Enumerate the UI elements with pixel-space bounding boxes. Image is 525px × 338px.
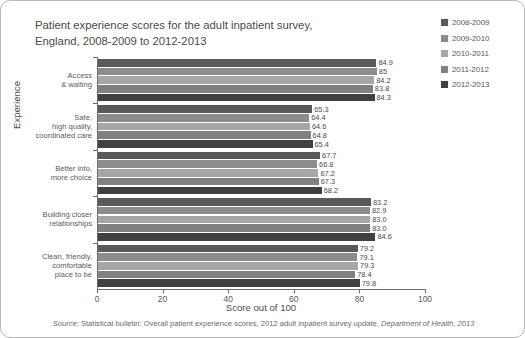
bar-row[interactable]: 65.3 [98,105,425,113]
x-axis-tick [228,289,229,293]
legend-swatch-icon [441,66,448,73]
bar-value-label: 85 [377,67,387,76]
bar-row[interactable]: 83.0 [98,216,425,224]
bar-row[interactable]: 83.2 [98,198,425,206]
bar[interactable] [98,198,371,206]
x-axis-title: Score out of 100 [97,302,425,313]
bar-value-label: 84.6 [375,232,391,241]
chart-title-line-2: England, 2008-2009 to 2012-2013 [35,33,375,49]
bar-row[interactable]: 82.9 [98,207,425,215]
bar[interactable] [98,114,309,122]
legend-item[interactable]: 2012-2013 [441,77,521,93]
bar-row[interactable]: 84.6 [98,233,425,241]
bar[interactable] [98,123,310,131]
bar[interactable] [98,262,358,270]
bar-group: Building closerrelationships83.282.983.0… [98,198,425,241]
bar-row[interactable]: 64.4 [98,114,425,122]
bar-value-label: 82.9 [370,206,386,215]
bar-value-label: 64.8 [311,131,327,140]
bar-value-label: 83.0 [370,215,386,224]
bar-group: Better info,more choice67.766.867.267.36… [98,152,425,195]
x-axis-tick [359,289,360,293]
category-label-line: more choice [26,173,92,182]
bar[interactable] [98,207,370,215]
category-label-line: & waiting [26,80,92,89]
chart-figure: Patient experience scores for the adult … [0,0,525,338]
bar[interactable] [98,85,373,93]
chart-legend: 2008-20092009-20102010-20112011-20122012… [441,15,521,93]
bar[interactable] [98,131,311,139]
bar-row[interactable]: 83.8 [98,85,425,93]
bar[interactable] [98,224,370,232]
bar[interactable] [98,169,318,177]
bar[interactable] [98,178,319,186]
bar[interactable] [98,152,320,160]
y-axis-category-label: Clean, friendly,comfortableplace to be [26,252,92,280]
y-axis-tick [93,196,97,197]
bar-row[interactable]: 67.7 [98,152,425,160]
y-axis-tick [93,57,97,58]
bar-row[interactable]: 64.6 [98,123,425,131]
y-axis-category-label: Safe,high quality,coordinated care [26,113,92,141]
bar[interactable] [98,105,312,113]
bar[interactable] [98,245,358,253]
legend-item[interactable]: 2009-2010 [441,31,521,47]
legend-item-label: 2009-2010 [452,34,489,43]
y-axis-title: Experience [11,81,22,129]
bar[interactable] [98,140,313,148]
bar-group: Clean, friendly,comfortableplace to be79… [98,245,425,288]
x-axis-tick [294,289,295,293]
bar[interactable] [98,271,355,279]
y-axis-category-label: Access& waiting [26,71,92,89]
bar-row[interactable]: 67.2 [98,169,425,177]
bar-row[interactable]: 79.8 [98,279,425,287]
bar-row[interactable]: 79.3 [98,262,425,270]
bar-value-label: 79.8 [360,279,376,288]
legend-swatch-icon [441,50,448,57]
bar[interactable] [98,59,376,67]
bar-value-label: 64.6 [310,122,326,131]
bar-value-label: 67.3 [319,177,335,186]
bar[interactable] [98,253,357,261]
bar-row[interactable]: 84.3 [98,94,425,102]
bar-row[interactable]: 84.2 [98,76,425,84]
bar-row[interactable]: 65.4 [98,140,425,148]
legend-item[interactable]: 2011-2012 [441,62,521,78]
bar-row[interactable]: 67.3 [98,178,425,186]
y-axis-tick [93,243,97,244]
bar-row[interactable]: 85 [98,68,425,76]
bar[interactable] [98,94,375,102]
category-label-line: comfortable [26,261,92,270]
bar[interactable] [98,68,377,76]
bar-row[interactable]: 64.8 [98,131,425,139]
source-body: Statistical bulletin: Overall patient ex… [79,319,381,328]
bar-value-label: 84.3 [375,93,391,102]
bar[interactable] [98,76,374,84]
bar-row[interactable]: 79.1 [98,253,425,261]
bar-row[interactable]: 83.0 [98,224,425,232]
legend-item[interactable]: 2010-2011 [441,46,521,62]
bar-value-label: 79.1 [357,253,373,262]
bar-value-label: 78.4 [355,270,371,279]
bar-row[interactable]: 68.2 [98,187,425,195]
bar-row[interactable]: 79.2 [98,245,425,253]
y-axis-tick [93,103,97,104]
bar-value-label: 83.2 [371,198,387,207]
bar[interactable] [98,216,370,224]
legend-item[interactable]: 2008-2009 [441,15,521,31]
bar[interactable] [98,279,360,287]
bar-row[interactable]: 66.8 [98,160,425,168]
bar-row[interactable]: 78.4 [98,271,425,279]
legend-swatch-icon [441,81,448,88]
bar-value-label: 79.3 [358,261,374,270]
bar[interactable] [98,233,375,241]
legend-item-label: 2012-2013 [452,80,489,89]
bar[interactable] [98,160,317,168]
bar-value-label: 83.0 [370,224,386,233]
source-prefix: Source: [53,319,79,328]
bar-value-label: 68.2 [322,186,338,195]
bar-value-label: 83.8 [373,84,389,93]
bar[interactable] [98,187,322,195]
category-label-line: Safe, [26,113,92,122]
bar-row[interactable]: 84.9 [98,59,425,67]
